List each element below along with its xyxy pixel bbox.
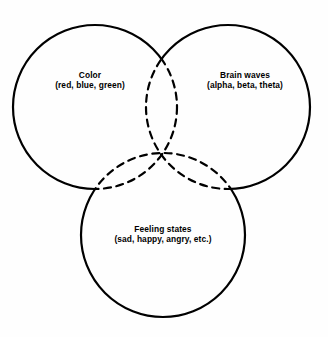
set-label-feeling-states: Feeling states (sad, happy, angry, etc.) bbox=[114, 224, 211, 245]
venn-diagram-figure: Color (red, blue, green) Brain waves (al… bbox=[0, 0, 328, 337]
set-label-color: Color (red, blue, green) bbox=[55, 70, 125, 91]
set-title-color: Color bbox=[55, 70, 125, 80]
set-title-brain-waves: Brain waves bbox=[207, 70, 283, 80]
set-examples-feeling-states: (sad, happy, angry, etc.) bbox=[114, 234, 211, 244]
set-title-feeling-states: Feeling states bbox=[114, 224, 211, 234]
venn-circles-svg bbox=[0, 0, 328, 337]
set-examples-brain-waves: (alpha, beta, theta) bbox=[207, 80, 283, 90]
set-examples-color: (red, blue, green) bbox=[55, 80, 125, 90]
set-label-brain-waves: Brain waves (alpha, beta, theta) bbox=[207, 70, 283, 91]
